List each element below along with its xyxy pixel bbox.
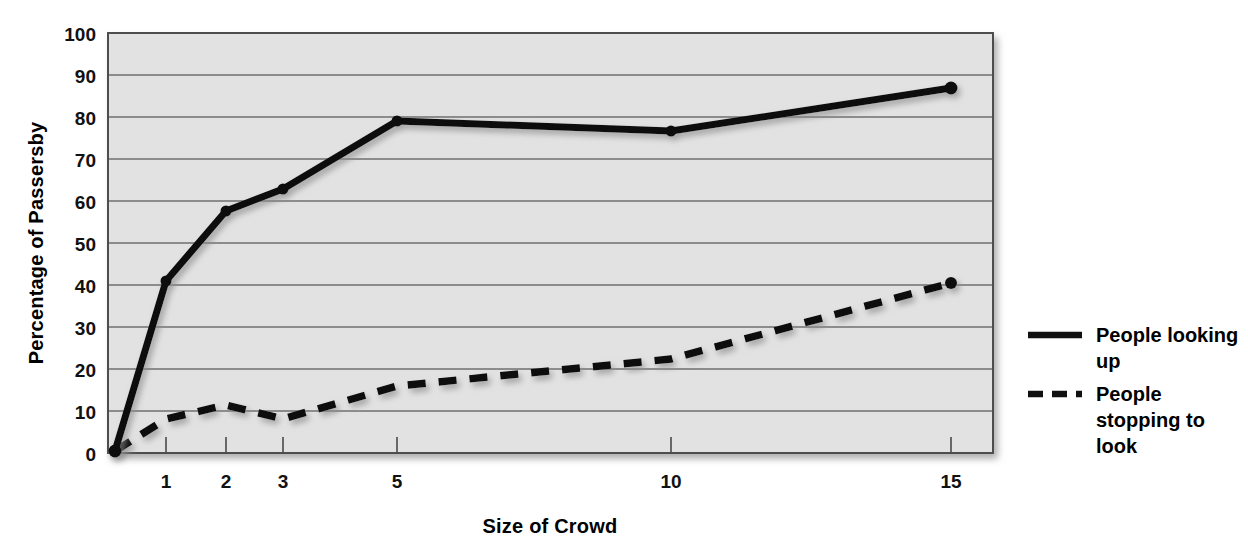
y-tick-label: 50	[75, 234, 96, 255]
x-tick-label: 15	[940, 471, 962, 492]
legend-label-line1: People	[1096, 383, 1162, 405]
y-tick-label: 10	[75, 402, 96, 423]
x-tick-label: 1	[161, 471, 172, 492]
chart-figure: 100 90 80 70 60 50 40 30 20 10 0 1 2 3 5…	[0, 0, 1248, 560]
x-tick-label: 3	[278, 471, 289, 492]
y-tick-label: 60	[75, 192, 96, 213]
data-point-marker	[161, 276, 172, 287]
data-point-marker	[221, 206, 232, 217]
data-point-marker	[109, 445, 122, 458]
y-axis-tick-labels: 100 90 80 70 60 50 40 30 20 10 0	[64, 24, 96, 465]
plot-area	[108, 33, 993, 453]
legend-label-line2: up	[1096, 350, 1120, 372]
x-tick-label: 10	[660, 471, 681, 492]
y-tick-label: 40	[75, 276, 96, 297]
x-axis-title: Size of Crowd	[483, 515, 618, 537]
data-point-marker	[945, 82, 958, 95]
legend-item-people-looking-up[interactable]: People looking up	[1028, 324, 1238, 372]
legend-label-line1: People looking	[1096, 324, 1238, 346]
x-axis-tick-labels: 1 2 3 5 10 15	[161, 471, 962, 492]
y-tick-label: 80	[75, 108, 96, 129]
y-tick-label: 90	[75, 66, 96, 87]
data-point-marker	[945, 277, 957, 289]
y-tick-label: 0	[85, 444, 96, 465]
x-tick-label: 2	[221, 471, 232, 492]
data-point-marker	[278, 184, 289, 195]
legend-label-line2: stopping to	[1096, 409, 1205, 431]
legend-label-line3: look	[1096, 435, 1138, 457]
y-axis-title: Percentage of Passersby	[25, 121, 47, 364]
x-tick-label: 5	[392, 471, 403, 492]
y-tick-label: 20	[75, 360, 96, 381]
legend: People looking up People stopping to loo…	[1028, 324, 1238, 457]
y-tick-label: 70	[75, 150, 96, 171]
data-point-marker	[392, 116, 403, 127]
y-tick-label: 30	[75, 318, 96, 339]
line-chart-svg: 100 90 80 70 60 50 40 30 20 10 0 1 2 3 5…	[0, 0, 1248, 560]
legend-item-people-stopping-to-look[interactable]: People stopping to look	[1028, 383, 1205, 457]
y-tick-label: 100	[64, 24, 96, 45]
data-point-marker	[666, 126, 677, 137]
